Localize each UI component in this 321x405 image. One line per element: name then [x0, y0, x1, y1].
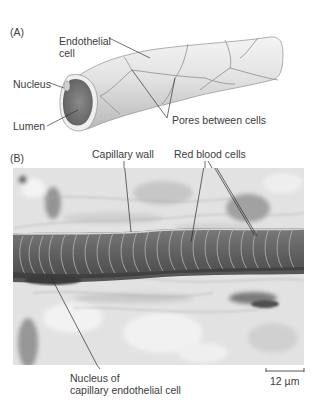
capillary-wall-label: Capillary wall: [92, 148, 154, 160]
micrograph-render: [13, 168, 304, 365]
capillary-tube-diagram: [0, 0, 321, 160]
panel-b-label: (B): [10, 152, 24, 164]
scale-bar-label: 12 µm: [270, 375, 299, 387]
nucleus-of-endothelial-label-line1: Nucleus of: [70, 372, 120, 384]
capillary-micrograph: [13, 168, 304, 365]
nucleus-of-endothelial-label-line2: capillary endothelial cell: [70, 384, 181, 396]
scale-bar: [266, 368, 304, 372]
red-blood-cells-label: Red blood cells: [174, 148, 246, 160]
